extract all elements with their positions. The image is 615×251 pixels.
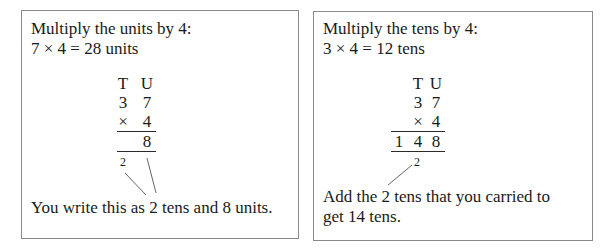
tens-step-panel: Multiply the tens by 4: 3 × 4 = 12 tens … xyxy=(313,11,593,241)
units-step-panel: Multiply the units by 4: 7 × 4 = 28 unit… xyxy=(21,10,299,239)
units-step-caption: You write this as 2 tens and 8 units. xyxy=(31,198,272,217)
tens-step-caption-line2: get 14 tens. xyxy=(323,207,401,226)
tens-step-caption-line1: Add the 2 tens that you carried to xyxy=(323,187,550,206)
